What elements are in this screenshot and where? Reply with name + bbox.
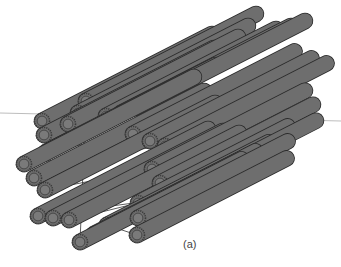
- tube-lumen: [133, 213, 143, 223]
- tube-lumen: [48, 213, 58, 223]
- tube-lumen: [29, 173, 39, 183]
- tube-lumen: [40, 185, 50, 195]
- tube-lumen: [39, 130, 49, 140]
- tube-lumen: [132, 230, 142, 240]
- tube-lumen: [37, 116, 47, 126]
- tube-lumen: [33, 211, 43, 221]
- tube-lumen: [75, 237, 85, 247]
- tube-lumen: [63, 119, 73, 129]
- tube-lumen: [19, 159, 29, 169]
- tube-bundle-figure: [0, 0, 341, 267]
- tube-group: [17, 14, 327, 250]
- figure-caption: (a): [183, 238, 196, 250]
- tube-lumen: [64, 215, 74, 225]
- tube-lumen: [145, 136, 155, 146]
